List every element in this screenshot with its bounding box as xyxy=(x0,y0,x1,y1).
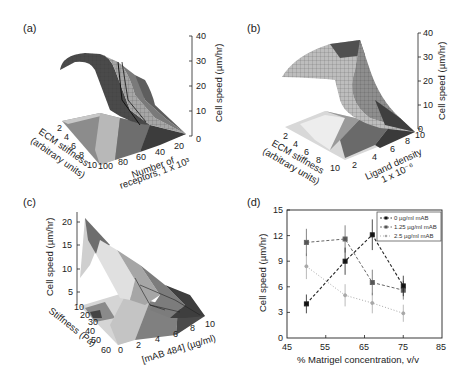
y-axis-label: Cell speed (µm/hr) xyxy=(257,234,268,312)
x-tick: 85 xyxy=(436,342,446,352)
y-tick: 12 xyxy=(273,231,283,241)
y-tick: 10 xyxy=(415,130,425,140)
z-tick: 30 xyxy=(196,56,206,66)
x-tick: 2 xyxy=(57,123,62,133)
y-tick: 9 xyxy=(278,256,283,266)
y-tick: 60 xyxy=(136,152,146,162)
z-tick: 5 xyxy=(68,287,73,297)
y-tick: 8 xyxy=(190,323,195,333)
z-tick: 20 xyxy=(423,76,433,86)
legend-item-2: 2.5 µg/ml mAB xyxy=(394,233,433,239)
y-tick: 6 xyxy=(173,329,178,339)
z-tick: 0 xyxy=(196,134,201,144)
panel-c-surface-plot: 20 15 10 5 Cell speed (µm/hr) 10 20 30 4… xyxy=(44,212,217,365)
y-tick: 100 xyxy=(98,161,113,171)
x-tick: 75 xyxy=(398,342,408,352)
z-axis-label: Cell speed (µm/hr) xyxy=(213,44,224,122)
z-axis-label: Cell speed (µm/hr) xyxy=(436,42,447,120)
x-axis-label: % Matrigel concentration, v/v xyxy=(297,354,419,365)
x-tick: 65 xyxy=(359,342,369,352)
y-tick: 15 xyxy=(273,205,283,215)
x-tick: 45 xyxy=(282,342,292,352)
y-tick: 0 xyxy=(118,345,123,355)
z-tick: 40 xyxy=(423,28,433,38)
y-tick: 80 xyxy=(118,157,128,167)
z-tick: 20 xyxy=(196,81,206,91)
z-tick: 10 xyxy=(62,264,72,274)
y-tick: 40 xyxy=(155,147,165,157)
z-tick: 40 xyxy=(196,31,206,41)
x-tick: 2 xyxy=(283,131,288,141)
y-tick: 6 xyxy=(390,144,395,154)
y-tick: 2 xyxy=(136,340,141,350)
y-tick: 4 xyxy=(372,152,377,162)
z-tick: 10 xyxy=(423,100,433,110)
panel-a-surface-plot: 40 30 20 10 0 Cell speed (µm/hr) 2 4 6 8… xyxy=(29,31,224,191)
legend: 0 µg/ml mAB 1.25 µg/ml mAB 2.5 µg/ml mAB xyxy=(377,212,441,241)
y-tick: 20 xyxy=(174,141,184,151)
z-tick: 10 xyxy=(196,106,206,116)
series-2-5-mab xyxy=(305,254,405,322)
z-tick: 30 xyxy=(423,52,433,62)
y-tick: 8 xyxy=(405,136,410,146)
panel-d-line-chart: 15 12 9 6 3 0 45 55 65 75 85 Cell speed … xyxy=(257,205,446,365)
y-tick: 2 xyxy=(352,160,357,170)
x-tick: 60 xyxy=(101,345,111,355)
x-tick: 10 xyxy=(330,163,340,173)
y-tick: 4 xyxy=(155,334,160,344)
z-tick: 15 xyxy=(62,240,72,250)
z-axis-label: Cell speed (µm/hr) xyxy=(44,218,55,296)
legend-item-1: 1.25 µg/ml mAB xyxy=(394,224,437,230)
legend-item-0: 0 µg/ml mAB xyxy=(394,215,428,221)
x-tick: 55 xyxy=(320,342,330,352)
panel-b-surface-plot: 40 30 20 10 0 Cell speed (µm/hr) 2 4 6 8… xyxy=(261,28,447,187)
y-tick: 10 xyxy=(205,319,215,329)
z-tick: 20 xyxy=(62,217,72,227)
y-tick: 6 xyxy=(278,282,283,292)
y-tick: 3 xyxy=(278,307,283,317)
